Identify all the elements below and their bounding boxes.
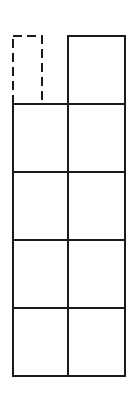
grid-cell: [13, 172, 68, 240]
solid-top-cell: [68, 36, 125, 104]
grid-cell: [13, 308, 68, 376]
grid-diagram: [0, 0, 137, 404]
grid-cell: [68, 308, 125, 376]
grid-cell: [13, 104, 68, 172]
grid-cell: [68, 104, 125, 172]
grid-cell: [68, 172, 125, 240]
grid-cell: [68, 240, 125, 308]
dashed-top-cell: [13, 36, 42, 104]
grid-cell: [13, 240, 68, 308]
